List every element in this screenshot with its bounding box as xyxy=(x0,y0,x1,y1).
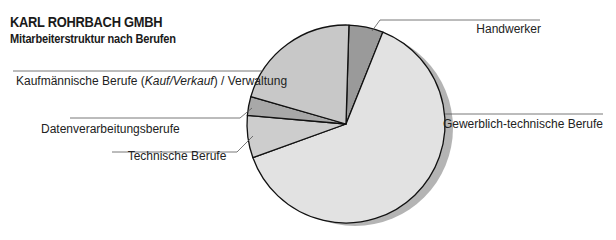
pie-slices xyxy=(247,25,445,223)
label-technische: Technische Berufe xyxy=(128,149,227,163)
label-kaufmaennisch: Kaufmännische Berufe (Kauf/Verkauf) / Ve… xyxy=(16,74,287,88)
label-handwerker: Handwerker xyxy=(476,22,541,36)
label-datenverarbeitung: Datenverarbeitungsberufe xyxy=(41,122,180,136)
label-kauf-suffix: ) / Verwaltung xyxy=(214,74,287,88)
label-kauf-italic: Kauf/Verkauf xyxy=(145,74,216,88)
label-kauf-prefix: Kaufmännische Berufe ( xyxy=(16,74,145,88)
pie-chart: Handwerker Gewerblich-technische Berufe … xyxy=(0,0,616,240)
label-gewerblich: Gewerblich-technische Berufe xyxy=(443,117,603,131)
leader-line-datenverarbeitung xyxy=(70,108,252,118)
